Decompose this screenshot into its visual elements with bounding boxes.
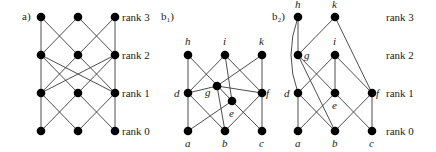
node-label-b1-b: b xyxy=(222,137,228,149)
node-label-b1-e: e xyxy=(229,107,234,119)
edges-layer xyxy=(41,17,372,131)
node-label-b2-a: a xyxy=(295,137,301,149)
rank-label-right-3: rank 3 xyxy=(386,11,414,23)
node-a-a31 xyxy=(74,13,83,22)
node-b2-k xyxy=(331,13,340,22)
node-a-a30 xyxy=(37,13,46,22)
node-label-b2-f: f xyxy=(376,87,381,99)
node-label-b2-c: c xyxy=(369,137,374,149)
node-a-a12 xyxy=(111,89,120,98)
edge-b1-i-f xyxy=(225,55,262,93)
node-b1-e xyxy=(228,97,237,106)
node-b2-d xyxy=(294,89,303,98)
node-b2-a xyxy=(294,127,303,136)
node-b1-d xyxy=(184,89,193,98)
node-b2-e xyxy=(331,89,340,98)
node-a-a02 xyxy=(111,127,120,136)
node-a-a22 xyxy=(111,51,120,60)
rank-label-left-2: rank 2 xyxy=(122,49,150,61)
rank-label-left-0: rank 0 xyxy=(122,125,150,137)
rank-label-right-2: rank 2 xyxy=(386,49,414,61)
node-label-b1-a: a xyxy=(185,137,191,149)
rank-diagram-canvas: a)hikdgefabcb₁)hkgidefabcb₂)rank 3rank 2… xyxy=(0,0,436,152)
node-b1-h xyxy=(184,51,193,60)
node-label-b1-k: k xyxy=(259,35,265,47)
node-b2-c xyxy=(368,127,377,136)
node-label-b1-g: g xyxy=(205,86,211,98)
node-b1-f xyxy=(258,89,267,98)
edge-b1-k-g xyxy=(217,55,262,86)
rank-label-left-3: rank 3 xyxy=(122,11,150,23)
edge-b2-k-f xyxy=(335,17,372,93)
rank-label-left-1: rank 1 xyxy=(122,87,150,99)
rank-label-right-0: rank 0 xyxy=(386,125,414,137)
node-b2-b xyxy=(331,127,340,136)
node-b2-i xyxy=(331,51,340,60)
node-label-b2-h: h xyxy=(295,0,301,10)
node-label-b1-i: i xyxy=(223,35,226,47)
node-label-b1-h: h xyxy=(185,35,191,47)
node-a-a11 xyxy=(74,89,83,98)
node-a-a00 xyxy=(37,127,46,136)
node-a-a32 xyxy=(111,13,120,22)
node-label-b1-c: c xyxy=(259,137,264,149)
node-b2-g xyxy=(294,51,303,60)
node-b1-k xyxy=(258,51,267,60)
node-a-a21 xyxy=(74,51,83,60)
rank-label-right-1: rank 1 xyxy=(386,87,414,99)
node-label-b2-d: d xyxy=(284,87,290,99)
node-label-b1-d: d xyxy=(174,87,180,99)
node-label-b2-b: b xyxy=(332,137,338,149)
node-a-a01 xyxy=(74,127,83,136)
node-a-a20 xyxy=(37,51,46,60)
node-label-b2-i: i xyxy=(333,35,336,47)
node-b1-g xyxy=(213,82,222,91)
node-b1-i xyxy=(221,51,230,60)
node-label-b2-e: e xyxy=(332,99,337,111)
node-b1-c xyxy=(258,127,267,136)
panel-label-b2: b₂) xyxy=(272,10,285,23)
node-a-a10 xyxy=(37,89,46,98)
node-label-b1-f: f xyxy=(266,87,271,99)
node-label-b2-g: g xyxy=(304,49,310,61)
edge-b2-i-f xyxy=(335,55,372,93)
node-b2-f xyxy=(368,89,377,98)
edge-b2-g-b xyxy=(298,55,335,131)
edge-b1-e-c xyxy=(232,101,262,131)
node-b1-b xyxy=(221,127,230,136)
node-label-b2-k: k xyxy=(332,0,338,10)
edge-b1-g-d xyxy=(188,86,217,93)
panel-label-a: a) xyxy=(22,10,31,23)
node-b2-h xyxy=(294,13,303,22)
node-b1-a xyxy=(184,127,193,136)
labels-layer: a)hikdgefabcb₁)hkgidefabcb₂)rank 3rank 2… xyxy=(22,0,414,149)
panel-label-b1: b₁) xyxy=(161,10,174,23)
